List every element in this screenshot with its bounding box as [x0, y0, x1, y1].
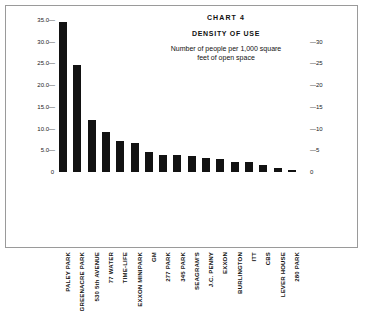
x-axis-label: BURLINGTON [237, 252, 243, 294]
y-axis-right: —30—25—20—15—10—50 [306, 20, 356, 172]
bar [259, 165, 267, 172]
bar [274, 168, 282, 172]
x-axis-label: SEAGRAM'S [194, 252, 200, 290]
x-axis-label: TIME-LIFE [122, 252, 128, 283]
bar [288, 170, 296, 172]
x-axis-label: PALEY PARK [65, 252, 71, 292]
y-axis-right-tick: —5 [310, 147, 319, 153]
x-axis-label: 345 PARK [180, 252, 186, 282]
bar [245, 162, 253, 172]
y-axis-left-tick: 35.0— [37, 17, 54, 23]
x-axis-label: GREENACRE PARK [79, 252, 85, 311]
bar [145, 152, 153, 172]
bar [216, 159, 224, 172]
bar [116, 141, 124, 172]
y-axis-left-tick: 15.0— [37, 104, 54, 110]
y-axis-right-tick: —20 [310, 82, 323, 88]
y-axis-left-tick: 0 [51, 169, 54, 175]
bar [131, 143, 139, 172]
y-axis-right-tick: 0 [310, 169, 313, 175]
chart-frame: CHART 4 DENSITY OF USE Number of people … [5, 5, 358, 248]
bar [231, 162, 239, 172]
x-axis-label: 530 5th AVENUE [94, 252, 100, 301]
y-axis-left-tick: 30.0— [37, 39, 54, 45]
bar [88, 120, 96, 172]
x-axis-label: 77 WATER [108, 252, 114, 283]
plot-area [56, 20, 299, 172]
x-axis-label: EXXON [222, 252, 228, 274]
bar [59, 22, 67, 172]
y-axis-right-tick: —10 [310, 126, 323, 132]
bar [102, 132, 110, 172]
x-axis-label: ITT [251, 252, 257, 262]
x-axis-label: 280 PARK [294, 252, 300, 282]
bar [159, 155, 167, 172]
y-axis-left-tick: 25.0— [37, 60, 54, 66]
x-axis-label: GM [151, 252, 157, 262]
y-axis-left-tick: 10.0— [37, 126, 54, 132]
bar [188, 156, 196, 172]
x-axis-label: J.C. PENNY [208, 252, 214, 287]
y-axis-right-tick: —30 [310, 39, 323, 45]
y-axis-left-tick: 5.0— [41, 147, 54, 153]
x-axis-label: 277 PARK [165, 252, 171, 282]
bar [202, 158, 210, 172]
y-axis-right-tick: —25 [310, 60, 323, 66]
y-axis-left-tick: 20.0— [37, 82, 54, 88]
bar [173, 155, 181, 172]
x-axis-category-labels: PALEY PARKGREENACRE PARK530 5th AVENUE77… [56, 174, 299, 254]
x-axis-label: LEVER HOUSE [280, 252, 286, 297]
x-axis-label: CBS [265, 252, 271, 265]
y-axis-right-tick: —15 [310, 104, 323, 110]
y-axis-left: 35.0—30.0—25.0—20.0—15.0—10.0—5.0—0 [10, 20, 54, 172]
x-axis-label: EXXON MINIPARK [137, 252, 143, 307]
bar [73, 65, 81, 172]
